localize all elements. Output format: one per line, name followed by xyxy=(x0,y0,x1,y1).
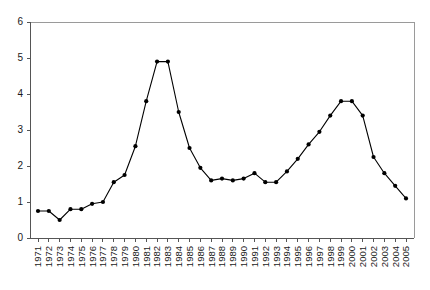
x-tick-label: 1989 xyxy=(227,246,238,267)
x-tick-label: 2001 xyxy=(357,246,368,267)
data-point-marker xyxy=(47,209,51,213)
y-tick-label: 6 xyxy=(17,16,23,27)
data-point-markers xyxy=(36,60,408,223)
x-tick-label: 1983 xyxy=(162,246,173,267)
data-point-marker xyxy=(306,142,310,146)
data-point-marker xyxy=(393,184,397,188)
data-point-marker xyxy=(198,166,202,170)
x-tick-label: 1976 xyxy=(87,246,98,267)
x-tick-label: 1985 xyxy=(184,246,195,267)
data-point-marker xyxy=(187,146,191,150)
x-tick-label: 1973 xyxy=(54,246,65,267)
data-point-marker xyxy=(371,155,375,159)
x-tick-label: 2003 xyxy=(379,246,390,267)
y-axis-ticks xyxy=(27,22,31,238)
line-chart: 0123456 19711972197319741975197619771978… xyxy=(0,0,430,290)
x-tick-label: 1979 xyxy=(119,246,130,267)
data-point-marker xyxy=(285,169,289,173)
x-tick-label: 2004 xyxy=(390,246,401,267)
x-tick-label: 1986 xyxy=(195,246,206,267)
chart-container: 0123456 19711972197319741975197619771978… xyxy=(0,0,430,290)
x-tick-label: 1974 xyxy=(65,246,76,267)
x-tick-label: 1994 xyxy=(281,246,292,267)
series-line xyxy=(38,62,406,220)
data-series-line xyxy=(38,62,406,220)
x-axis-labels: 1971197219731974197519761977197819791980… xyxy=(32,246,411,267)
x-axis-ticks xyxy=(38,238,406,242)
data-point-marker xyxy=(231,178,235,182)
x-tick-label: 2005 xyxy=(400,246,411,267)
data-point-marker xyxy=(252,171,256,175)
x-tick-label: 1978 xyxy=(108,246,119,267)
x-tick-label: 1982 xyxy=(151,246,162,267)
y-tick-label: 1 xyxy=(17,196,23,207)
x-tick-label: 1998 xyxy=(325,246,336,267)
x-tick-label: 1987 xyxy=(206,246,217,267)
x-tick-label: 2000 xyxy=(346,246,357,267)
y-tick-label: 3 xyxy=(17,124,23,135)
data-point-marker xyxy=(155,60,159,64)
data-point-marker xyxy=(328,114,332,118)
data-point-marker xyxy=(166,60,170,64)
x-tick-label: 1999 xyxy=(335,246,346,267)
x-tick-label: 1971 xyxy=(32,246,43,267)
data-point-marker xyxy=(274,180,278,184)
data-point-marker xyxy=(36,209,40,213)
x-tick-label: 1980 xyxy=(130,246,141,267)
data-point-marker xyxy=(68,207,72,211)
data-point-marker xyxy=(242,177,246,181)
x-tick-label: 1977 xyxy=(97,246,108,267)
data-point-marker xyxy=(220,177,224,181)
data-point-marker xyxy=(112,180,116,184)
x-tick-label: 2002 xyxy=(368,246,379,267)
data-point-marker xyxy=(404,196,408,200)
data-point-marker xyxy=(317,130,321,134)
y-tick-label: 4 xyxy=(17,88,23,99)
x-tick-label: 1990 xyxy=(238,246,249,267)
x-tick-label: 1981 xyxy=(141,246,152,267)
data-point-marker xyxy=(263,180,267,184)
x-tick-label: 1975 xyxy=(76,246,87,267)
x-tick-label: 1995 xyxy=(292,246,303,267)
data-point-marker xyxy=(209,178,213,182)
data-point-marker xyxy=(79,207,83,211)
x-tick-label: 1996 xyxy=(303,246,314,267)
data-point-marker xyxy=(101,200,105,204)
x-tick-label: 1988 xyxy=(216,246,227,267)
x-tick-label: 1993 xyxy=(271,246,282,267)
data-point-marker xyxy=(339,99,343,103)
data-point-marker xyxy=(296,157,300,161)
data-point-marker xyxy=(144,99,148,103)
data-point-marker xyxy=(122,173,126,177)
x-tick-label: 1984 xyxy=(173,246,184,267)
y-tick-label: 5 xyxy=(17,52,23,63)
data-point-marker xyxy=(177,110,181,114)
data-point-marker xyxy=(58,218,62,222)
y-tick-label: 0 xyxy=(17,232,23,243)
x-tick-label: 1972 xyxy=(43,246,54,267)
x-tick-label: 1992 xyxy=(260,246,271,267)
data-point-marker xyxy=(350,99,354,103)
data-point-marker xyxy=(90,202,94,206)
data-point-marker xyxy=(361,114,365,118)
x-tick-label: 1991 xyxy=(249,246,260,267)
y-tick-label: 2 xyxy=(17,160,23,171)
data-point-marker xyxy=(133,144,137,148)
y-axis-labels: 0123456 xyxy=(17,16,23,243)
data-point-marker xyxy=(382,171,386,175)
x-tick-label: 1997 xyxy=(314,246,325,267)
